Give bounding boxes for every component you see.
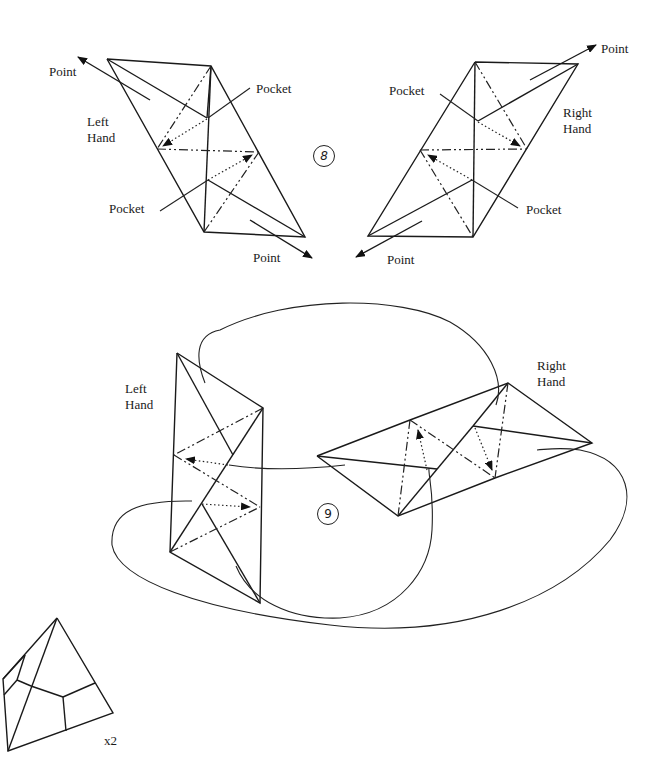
step-number-9: 9 xyxy=(317,503,339,525)
result-multiplier-label: x2 xyxy=(104,733,117,749)
step8-left-pocket-top-label: Pocket xyxy=(256,81,291,97)
step8-left-point-bottom-label: Point xyxy=(253,250,280,266)
step8-right-point-bottom-label: Point xyxy=(387,252,414,268)
step-number-8: 8 xyxy=(313,145,335,167)
step8-left-point-top-label: Point xyxy=(49,64,76,80)
step8-right-pocket-bottom-label: Pocket xyxy=(526,202,561,218)
step8-right-point-top-label: Point xyxy=(601,41,628,57)
step8-left-hand-label: Left Hand xyxy=(87,114,115,146)
result-module-figure xyxy=(3,618,113,751)
step9-motion-curves xyxy=(112,303,627,628)
step8-right-hand-unit xyxy=(356,45,596,257)
step9-right-hand-label: Right Hand xyxy=(537,358,566,390)
step9-right-hand-unit xyxy=(317,383,592,516)
step9-left-hand-unit xyxy=(170,353,263,603)
step8-right-hand-label: Right Hand xyxy=(563,105,592,137)
step8-left-pocket-bottom-label: Pocket xyxy=(109,201,144,217)
step8-right-pocket-top-label: Pocket xyxy=(389,83,424,99)
step9-left-hand-label: Left Hand xyxy=(125,381,153,413)
